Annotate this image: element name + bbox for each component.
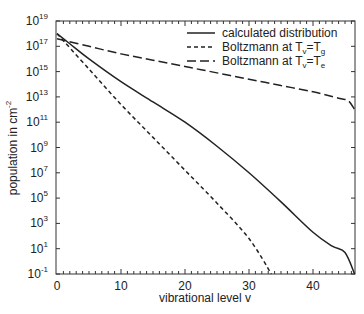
- x-tick-label: 10: [114, 279, 128, 293]
- y-tick-label: 1011: [26, 113, 48, 129]
- y-tick-label: 1013: [26, 88, 49, 104]
- y-tick-label: 109: [30, 139, 48, 155]
- y-tick-label: 107: [30, 164, 48, 180]
- population-chart: population in cm-2 101910171015101310111…: [0, 0, 364, 314]
- y-tick-label: 105: [30, 189, 48, 205]
- x-tick-label: 40: [306, 279, 320, 293]
- x-tick-label: 0: [54, 279, 61, 293]
- legend-label: Boltzmann at Tv=Te: [222, 54, 326, 70]
- y-tick-label: 1015: [26, 63, 49, 79]
- series-short-dash-line: [57, 34, 271, 274]
- data-series: [57, 34, 355, 274]
- svg-text:population in cm-2: population in cm-2: [4, 100, 20, 195]
- y-tick-label: 1017: [26, 37, 49, 53]
- y-tick-label: 1019: [26, 12, 49, 28]
- x-axis-title: vibrational level v: [159, 291, 251, 305]
- y-axis-title: population in cm-2: [4, 100, 20, 195]
- legend: calculated distributionBoltzmann at Tv=T…: [187, 26, 337, 70]
- legend-label: calculated distribution: [222, 26, 337, 40]
- series-solid-line: [57, 34, 355, 274]
- y-tick-label: 101: [30, 240, 48, 256]
- y-tick-label: 103: [30, 214, 48, 230]
- y-tick-label: 10-1: [28, 265, 49, 281]
